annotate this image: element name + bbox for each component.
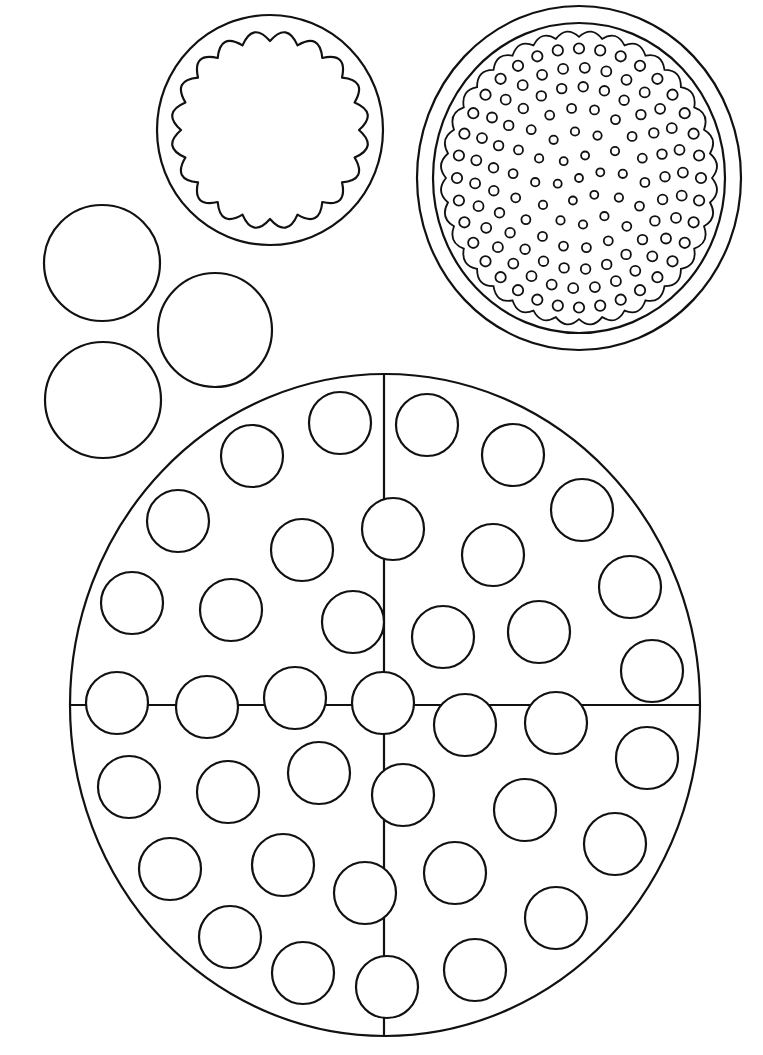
pizza-dot — [98, 756, 160, 818]
small-dot — [677, 191, 687, 201]
small-dot — [595, 45, 605, 55]
small-dot — [514, 145, 523, 154]
pizza-dot — [176, 676, 238, 738]
outer-ring — [417, 6, 741, 350]
small-dot — [581, 152, 589, 160]
small-dot — [557, 84, 567, 94]
pizza-dot — [494, 779, 556, 841]
small-dot — [559, 242, 568, 251]
small-dot — [615, 193, 623, 201]
pizza-dot — [322, 591, 384, 653]
small-dot — [489, 163, 499, 173]
pizza-dot — [525, 692, 587, 754]
small-dot — [489, 186, 499, 196]
small-dot — [554, 180, 562, 188]
small-dot — [468, 108, 478, 118]
small-dot — [495, 208, 505, 218]
pizza-dot — [334, 862, 396, 924]
pizza-dot — [264, 667, 326, 729]
small-dot — [480, 90, 490, 100]
small-dot — [471, 155, 481, 165]
scallop-edge — [441, 32, 717, 325]
pizza-dot — [147, 490, 209, 552]
small-dot — [650, 216, 660, 226]
pizza-dot — [352, 672, 414, 734]
pizza-dot — [599, 556, 661, 618]
small-circles — [44, 205, 272, 458]
small-dot — [619, 95, 629, 105]
small-dot — [474, 201, 484, 211]
small-dot — [635, 61, 645, 71]
pizza-dot — [434, 694, 496, 756]
pizza-dot — [396, 394, 458, 456]
pizza-dot — [372, 764, 434, 826]
small-dot — [459, 217, 469, 227]
pizza-dot — [356, 956, 418, 1018]
outer-ring — [157, 15, 383, 245]
dotted-circle — [417, 6, 741, 350]
pizza-dot — [101, 572, 163, 634]
small-dot — [511, 193, 520, 202]
small-dot — [547, 280, 557, 290]
small-dot — [567, 104, 576, 113]
pizza-dot — [288, 742, 350, 804]
pizza-dot — [309, 392, 371, 454]
small-dot — [652, 74, 662, 84]
small-dot — [553, 45, 563, 55]
small-dot — [602, 260, 612, 270]
small-dot — [539, 201, 547, 209]
small-dot — [549, 136, 557, 144]
small-dot — [611, 115, 620, 124]
small-dot — [532, 295, 542, 305]
pizza-dot — [462, 524, 524, 586]
small-dot — [696, 173, 706, 183]
small-dot — [694, 150, 704, 160]
small-dot — [667, 123, 677, 133]
small-dot — [558, 64, 568, 74]
pizza-dot — [139, 838, 201, 900]
pizza-dot — [197, 761, 259, 823]
small-dot — [459, 129, 469, 139]
pizza-dot — [525, 887, 587, 949]
small-dot — [501, 95, 511, 105]
small-dot — [660, 172, 670, 182]
small-dot — [531, 178, 539, 186]
small-dot — [487, 113, 497, 123]
small-dot — [590, 282, 600, 292]
small-dot — [601, 66, 611, 76]
quartered-circle-with-dots — [70, 374, 700, 1036]
small-dot — [494, 141, 504, 151]
small-dot — [556, 216, 564, 224]
plain-circle — [45, 342, 161, 458]
small-dot — [580, 63, 590, 73]
small-dot — [622, 222, 631, 231]
scallop-edge — [172, 32, 368, 228]
small-dot — [569, 197, 577, 205]
small-dot — [680, 108, 690, 118]
small-dot — [454, 195, 464, 205]
small-dot — [537, 91, 547, 101]
small-dot — [537, 70, 547, 80]
small-dot — [454, 150, 464, 160]
small-dot — [630, 266, 640, 276]
small-dot — [593, 131, 601, 139]
small-dot — [671, 213, 681, 223]
small-dot — [636, 110, 646, 120]
small-dot — [616, 51, 626, 61]
small-dot — [504, 121, 514, 131]
pizza-dot — [221, 425, 283, 487]
small-dot — [658, 195, 668, 205]
plain-circle — [44, 205, 160, 321]
pizza-dot — [86, 672, 148, 734]
small-dot — [596, 168, 604, 176]
coloring-page — [0, 0, 763, 1055]
small-dot — [480, 256, 490, 266]
small-dot — [635, 202, 644, 211]
small-dot — [452, 173, 462, 183]
small-dot — [513, 61, 523, 71]
small-dot — [590, 105, 599, 114]
small-dot — [582, 243, 591, 252]
small-dot — [635, 285, 645, 295]
small-dot — [640, 87, 650, 97]
small-dot — [559, 263, 569, 273]
